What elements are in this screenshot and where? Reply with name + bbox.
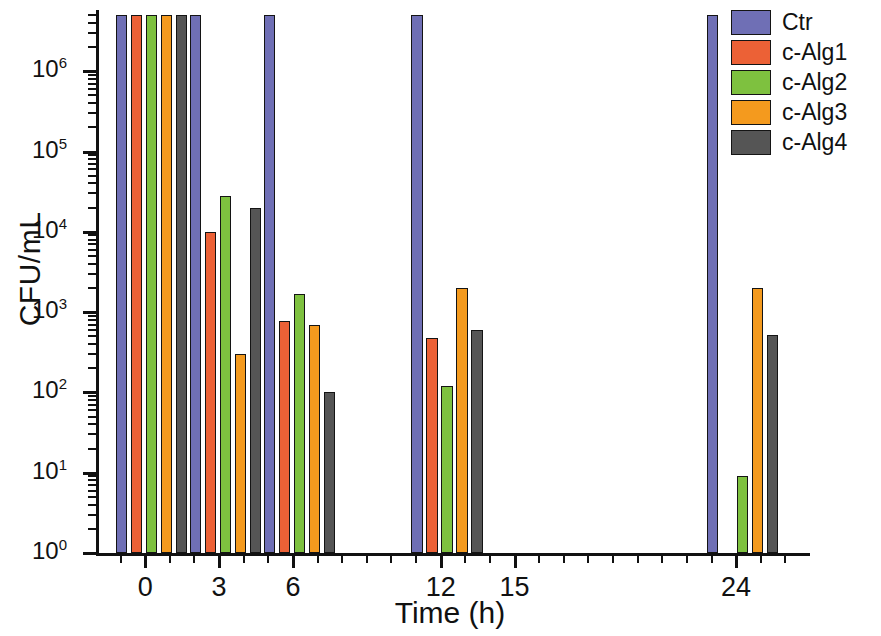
bar-c-alg3-0h xyxy=(161,15,173,553)
bar-ctr-3h xyxy=(190,15,202,553)
bar-ctr-24h xyxy=(707,15,719,553)
y-tick-major: 106 xyxy=(83,70,97,73)
y-tick-major: 104 xyxy=(83,231,97,234)
bar-ctr-6h xyxy=(264,15,276,553)
x-tick-label: 0 xyxy=(138,572,153,603)
x-tick-label: 6 xyxy=(285,572,300,603)
legend-swatch-ctr xyxy=(731,10,771,35)
y-tick-label: 105 xyxy=(32,135,67,164)
bar-c-alg4-6h xyxy=(324,392,336,553)
bar-c-alg2-0h xyxy=(146,15,158,553)
legend-swatch-c-alg1 xyxy=(731,40,771,65)
legend-swatch-c-alg4 xyxy=(731,130,771,155)
legend-label: c-Alg1 xyxy=(782,41,847,64)
y-tick-major: 101 xyxy=(83,472,97,475)
y-tick-label: 106 xyxy=(32,54,67,83)
bar-c-alg3-6h xyxy=(309,325,321,553)
y-axis-title: CFU/mL xyxy=(13,169,47,369)
bar-c-alg4-12h xyxy=(471,330,483,553)
bar-c-alg2-12h xyxy=(441,386,453,553)
bar-c-alg1-3h xyxy=(205,232,217,553)
y-tick-label: 103 xyxy=(32,295,67,324)
bars-layer xyxy=(96,10,810,556)
legend-item-c-alg4[interactable]: c-Alg4 xyxy=(731,128,881,157)
y-tick-major: 105 xyxy=(83,151,97,154)
legend-item-c-alg2[interactable]: c-Alg2 xyxy=(731,68,881,97)
bar-ctr-12h xyxy=(411,15,423,553)
legend-label: c-Alg4 xyxy=(782,131,847,154)
bar-c-alg3-12h xyxy=(456,288,468,553)
bar-chart-figure: CFU/mL Time (h) 100101102103104105106 03… xyxy=(0,0,881,636)
bar-c-alg1-6h xyxy=(279,321,291,553)
y-tick-label: 100 xyxy=(32,536,67,565)
legend: Ctrc-Alg1c-Alg2c-Alg3c-Alg4 xyxy=(731,8,881,158)
y-tick-label: 104 xyxy=(32,215,67,244)
legend-item-c-alg3[interactable]: c-Alg3 xyxy=(731,98,881,127)
x-tick-label: 3 xyxy=(212,572,227,603)
bar-c-alg2-24h xyxy=(737,476,749,553)
legend-swatch-c-alg2 xyxy=(731,70,771,95)
legend-label: c-Alg2 xyxy=(782,71,847,94)
bar-ctr-0h xyxy=(116,15,128,553)
x-tick-label: 24 xyxy=(721,572,751,603)
legend-swatch-c-alg3 xyxy=(731,100,771,125)
bar-c-alg1-0h xyxy=(131,15,143,553)
legend-item-ctr[interactable]: Ctr xyxy=(731,8,881,37)
x-tick-label: 15 xyxy=(500,572,530,603)
y-tick-major: 100 xyxy=(83,552,97,555)
y-tick-label: 102 xyxy=(32,375,67,404)
legend-label: c-Alg3 xyxy=(782,101,847,124)
plot-area: 100101102103104105106 036121524 xyxy=(96,10,810,556)
legend-label: Ctr xyxy=(782,11,813,34)
bar-c-alg3-3h xyxy=(235,354,247,553)
bar-c-alg4-3h xyxy=(250,208,262,553)
legend-item-c-alg1[interactable]: c-Alg1 xyxy=(731,38,881,67)
bar-c-alg2-6h xyxy=(294,294,306,553)
bar-c-alg1-12h xyxy=(426,338,438,553)
y-tick-major: 103 xyxy=(83,311,97,314)
y-tick-label: 101 xyxy=(32,456,67,485)
bar-c-alg4-0h xyxy=(176,15,188,553)
x-tick-label: 12 xyxy=(426,572,456,603)
bar-c-alg3-24h xyxy=(752,288,764,553)
y-tick-major: 102 xyxy=(83,391,97,394)
bar-c-alg2-3h xyxy=(220,196,232,553)
bar-c-alg4-24h xyxy=(767,335,779,553)
